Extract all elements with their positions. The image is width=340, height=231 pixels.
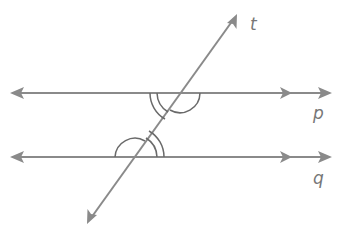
line-p	[10, 87, 332, 99]
label-p: p	[312, 103, 324, 123]
angle-marks-p	[150, 93, 200, 119]
angle-marks-q	[115, 131, 164, 157]
parallel-lines-diagram: t p q	[0, 0, 340, 231]
double-arc-inner	[146, 138, 157, 157]
label-t: t	[250, 14, 258, 34]
line-q	[10, 151, 332, 163]
double-arc-inner	[157, 93, 168, 112]
transversal-t	[87, 14, 237, 224]
label-q: q	[313, 168, 324, 188]
